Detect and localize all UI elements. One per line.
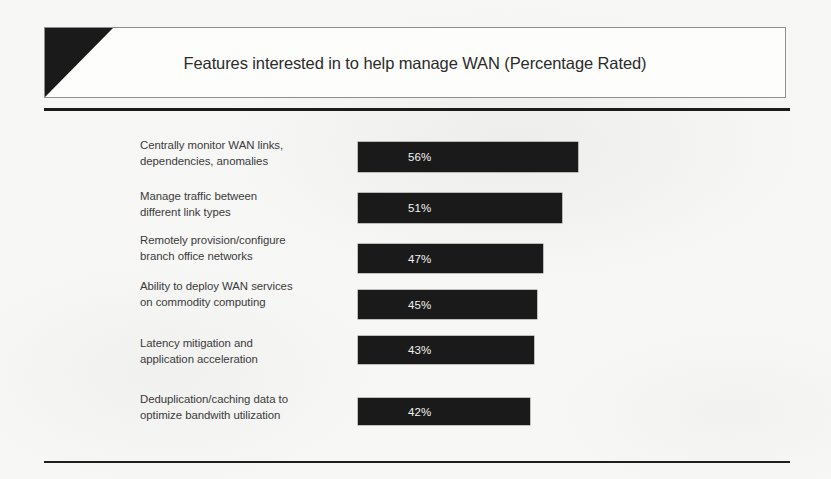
bar-category-label: Ability to deploy WAN serviceson commodi… [140, 279, 350, 310]
bar-category-label: Deduplication/caching data tooptimize ba… [140, 392, 350, 423]
bar-category-label-line2: on commodity computing [140, 295, 350, 311]
bar-category-label-line2: branch office networks [140, 249, 350, 265]
bar-value-label: 56% [408, 151, 431, 163]
bar-category-label-line1: Ability to deploy WAN services [140, 279, 350, 295]
bar: 51% [358, 193, 562, 223]
bar-category-label: Manage traffic betweendifferent link typ… [140, 189, 350, 220]
bar-value-label: 45% [408, 299, 431, 311]
bar: 47% [358, 244, 543, 273]
bar-category-label-line1: Deduplication/caching data to [140, 392, 350, 408]
bar-value-label: 43% [408, 344, 431, 356]
bar-category-label: Latency mitigation andapplication accele… [140, 336, 350, 367]
bar-value-label: 47% [408, 253, 431, 265]
bar-chart: Centrally monitor WAN links,dependencies… [0, 0, 831, 479]
footer-divider-rule [44, 461, 790, 463]
bar-category-label-line1: Latency mitigation and [140, 336, 350, 352]
bar-category-label-line2: application acceleration [140, 352, 350, 368]
bar-value-label: 42% [408, 406, 431, 418]
bar: 43% [358, 336, 534, 364]
bar-category-label-line1: Centrally monitor WAN links, [140, 138, 350, 154]
bar: 45% [358, 290, 537, 319]
bar-category-label-line2: optimize bandwith utilization [140, 408, 350, 424]
bar-category-label-line2: different link types [140, 205, 350, 221]
bar-category-label-line2: dependencies, anomalies [140, 154, 350, 170]
bar-value-label: 51% [408, 202, 431, 214]
bar-category-label-line1: Manage traffic between [140, 189, 350, 205]
bar: 42% [358, 398, 530, 425]
bar-category-label: Centrally monitor WAN links,dependencies… [140, 138, 350, 169]
bar-category-label-line1: Remotely provision/configure [140, 233, 350, 249]
bar-category-label: Remotely provision/configurebranch offic… [140, 233, 350, 264]
bar: 56% [358, 142, 578, 172]
